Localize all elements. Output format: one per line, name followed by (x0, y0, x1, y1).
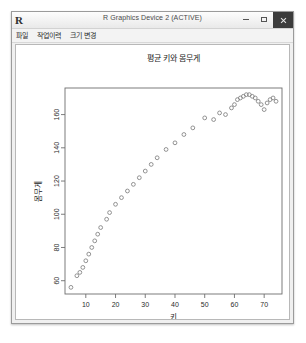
y-axis-label: 몸무게 (33, 181, 43, 202)
menu-item-resize[interactable]: 크기 변경 (70, 30, 96, 41)
screenshot-root: R R Graphics Device 2 (ACTIVE) 파일 작업이력 크… (0, 0, 306, 343)
minimize-button[interactable] (237, 12, 255, 27)
maximize-button[interactable] (255, 12, 273, 27)
x-axis-tick-label: 40 (171, 301, 179, 308)
x-axis-tick-label: 20 (112, 301, 120, 308)
x-axis-tick-label: 50 (201, 301, 209, 308)
y-axis-tick-label: 160 (54, 109, 61, 121)
maximize-icon (261, 17, 267, 22)
x-axis-label: 키 (170, 313, 177, 319)
close-icon (280, 17, 287, 24)
title-bar[interactable]: R R Graphics Device 2 (ACTIVE) (12, 12, 293, 29)
x-axis-tick-label: 10 (82, 301, 90, 308)
y-axis-tick-label: 140 (54, 142, 61, 154)
scatter-plot: 평균 키와 몸무게102030405060706080100120140160키… (16, 45, 289, 319)
graphics-canvas: 평균 키와 몸무게102030405060706080100120140160키… (15, 44, 290, 320)
menu-bar: 파일 작업이력 크기 변경 (12, 29, 293, 43)
x-axis-tick-label: 60 (231, 301, 239, 308)
menu-item-history[interactable]: 작업이력 (37, 30, 61, 41)
chart-title: 평균 키와 몸무게 (147, 53, 200, 63)
minimize-icon (243, 19, 249, 20)
x-axis-tick-label: 30 (141, 301, 149, 308)
x-axis-tick-label: 70 (260, 301, 268, 308)
menu-item-file[interactable]: 파일 (16, 30, 28, 41)
y-axis-tick-label: 80 (54, 243, 61, 251)
y-axis-tick-label: 60 (54, 277, 61, 285)
close-button[interactable] (273, 12, 293, 28)
y-axis-tick-label: 100 (54, 208, 61, 220)
y-axis-tick-label: 120 (54, 175, 61, 187)
r-graphics-window: R R Graphics Device 2 (ACTIVE) 파일 작업이력 크… (11, 11, 294, 324)
